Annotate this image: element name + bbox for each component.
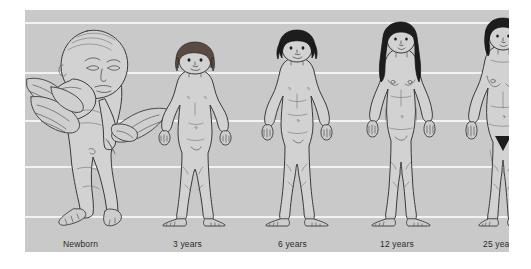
figure-age-25 — [457, 20, 509, 226]
age-label-6-years: 6 years — [278, 239, 307, 249]
age-label-band: Newborn 3 years 6 years 12 years 25 year… — [25, 228, 509, 252]
figure-age-3 — [151, 43, 239, 226]
child-standing-icon — [151, 43, 239, 226]
newborn-held-by-hands-icon — [27, 21, 167, 226]
figure-age-12 — [357, 24, 445, 226]
age-label-newborn: Newborn — [63, 239, 98, 249]
child-standing-icon — [253, 32, 341, 226]
figure-newborn — [27, 21, 167, 226]
growth-proportions-figure: Newborn 3 years 6 years 12 years 25 year… — [0, 0, 531, 269]
adolescent-standing-icon — [357, 24, 445, 226]
age-label-12-years: 12 years — [380, 239, 414, 249]
figure-age-6 — [253, 32, 341, 226]
growth-panel: Newborn 3 years 6 years 12 years 25 year… — [25, 10, 509, 252]
adult-standing-icon — [457, 20, 509, 226]
age-label-25-years: 25 years — [483, 239, 509, 249]
age-label-3-years: 3 years — [173, 239, 202, 249]
